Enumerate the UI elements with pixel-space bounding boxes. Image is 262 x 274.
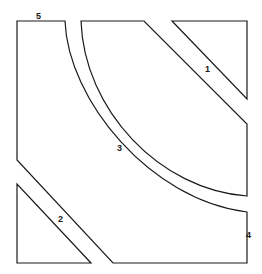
piece-3-outline <box>81 21 247 196</box>
piece-2-outline <box>17 184 91 263</box>
piece-5-label: 5 <box>36 11 41 21</box>
piece-2-label: 2 <box>58 214 63 224</box>
piece-5-outline <box>17 21 247 263</box>
piece-4-label: 4 <box>246 230 251 240</box>
piece-3-label: 3 <box>117 143 122 153</box>
piece-1-label: 1 <box>205 64 210 74</box>
pattern-diagram: 1 2 3 4 5 <box>0 0 262 274</box>
